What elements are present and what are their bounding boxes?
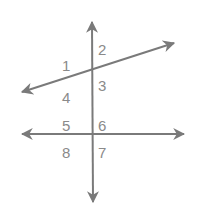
- angle-label-3: 3: [98, 78, 106, 93]
- angle-label-2: 2: [98, 42, 106, 57]
- transversal-line: [92, 22, 93, 202]
- angle-label-5: 5: [62, 118, 70, 133]
- angle-label-6: 6: [98, 118, 106, 133]
- angle-label-8: 8: [62, 145, 70, 160]
- angle-label-7: 7: [98, 145, 106, 160]
- transversal-diagram: [0, 0, 201, 210]
- angle-label-4: 4: [62, 90, 70, 105]
- angle-label-1: 1: [62, 58, 70, 73]
